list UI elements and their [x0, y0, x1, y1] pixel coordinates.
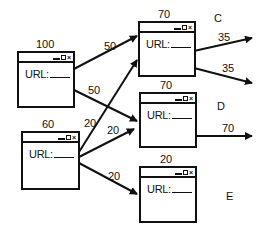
url-label: URL:: [29, 148, 53, 160]
url-field: URL:: [147, 183, 192, 195]
url-blank: [54, 157, 74, 158]
maximize-icon: [182, 25, 187, 30]
title-bar: ×: [140, 23, 194, 33]
browser-window-a: × URL:: [17, 51, 75, 108]
url-field: URL:: [29, 148, 74, 160]
url-blank: [171, 47, 191, 48]
edge-weight-b-c: 20: [84, 117, 96, 129]
url-blank: [50, 77, 70, 78]
edge-b-c: [79, 60, 137, 152]
url-field: URL:: [25, 68, 70, 80]
browser-window-e: × URL:: [139, 166, 197, 223]
title-bar: ×: [23, 133, 78, 143]
url-field: URL:: [146, 38, 191, 50]
edge-layer: [0, 0, 271, 240]
edge-weight-a-c: 50: [104, 40, 116, 52]
close-icon: ×: [189, 95, 193, 102]
node-letter-d: D: [217, 100, 225, 112]
edge-a-d: [72, 89, 137, 121]
browser-window-c: × URL:: [138, 21, 196, 77]
node-score-d: 70: [160, 79, 172, 91]
title-bar: ×: [141, 168, 195, 178]
browser-window-b: × URL:: [21, 131, 80, 190]
edge-weight-c-out2: 35: [222, 62, 234, 74]
maximize-icon: [183, 96, 188, 101]
url-blank: [172, 192, 192, 193]
node-score-a: 100: [36, 38, 54, 50]
edge-weight-d-out: 70: [222, 122, 234, 134]
minimize-icon: [53, 58, 60, 60]
minimize-icon: [175, 99, 182, 101]
minimize-icon: [175, 173, 182, 175]
edge-weight-c-out1: 35: [218, 31, 230, 43]
url-label: URL:: [147, 109, 171, 121]
url-label: URL:: [147, 183, 171, 195]
maximize-icon: [66, 135, 71, 140]
node-letter-e: E: [226, 190, 233, 202]
close-icon: ×: [67, 54, 71, 61]
minimize-icon: [58, 138, 65, 140]
title-bar: ×: [19, 53, 73, 63]
edge-weight-a-d: 50: [88, 84, 100, 96]
minimize-icon: [174, 28, 181, 30]
node-score-e: 20: [160, 153, 172, 165]
close-icon: ×: [188, 24, 192, 31]
node-letter-c: C: [214, 12, 222, 24]
maximize-icon: [61, 55, 66, 60]
title-bar: ×: [141, 94, 195, 104]
close-icon: ×: [72, 134, 76, 141]
edge-weight-b-d: 20: [107, 124, 119, 136]
node-score-c: 70: [158, 8, 170, 20]
node-score-b: 60: [42, 118, 54, 130]
url-blank: [172, 118, 192, 119]
close-icon: ×: [189, 169, 193, 176]
maximize-icon: [183, 170, 188, 175]
browser-window-d: × URL:: [139, 92, 197, 148]
url-field: URL:: [147, 109, 192, 121]
edge-weight-b-e: 20: [108, 170, 120, 182]
url-label: URL:: [25, 68, 49, 80]
url-label: URL:: [146, 38, 170, 50]
